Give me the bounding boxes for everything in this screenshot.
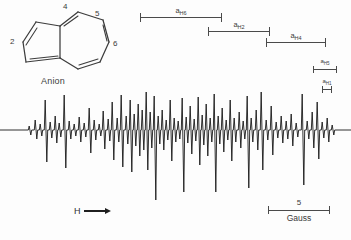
coupling-bar-aH2: aH2 xyxy=(208,22,270,36)
azulene-structure: 2 4 5 6 xyxy=(8,2,126,80)
coupling-label-aH1: aH1 xyxy=(322,78,331,84)
bar-line xyxy=(140,17,222,18)
arrow-icon xyxy=(84,210,106,212)
spectrum-derivative-curve xyxy=(0,92,351,200)
ring-position-6: 6 xyxy=(113,40,117,48)
bar-cap-right xyxy=(336,66,337,73)
ring-position-2: 2 xyxy=(10,38,14,46)
field-axis-label: H xyxy=(74,206,81,216)
bar-cap-right xyxy=(221,13,222,22)
scale-line xyxy=(268,210,330,211)
bar-line xyxy=(313,69,337,70)
coupling-bar-aH4: aH4 xyxy=(266,33,326,47)
bar-cap-right xyxy=(325,38,326,47)
figure-root: 2 4 5 6 Anion aH6 aH2 aH4 aH5 aH1 xyxy=(0,0,351,240)
coupling-bar-aH6: aH6 xyxy=(140,8,222,22)
bar-line xyxy=(208,31,270,32)
gauss-scale-bar: 5 Gauss xyxy=(268,198,330,228)
ring-position-4: 4 xyxy=(63,3,67,11)
gauss-unit-label: Gauss xyxy=(287,213,312,223)
coupling-label-aH5: aH5 xyxy=(320,58,329,64)
species-label: Anion xyxy=(41,76,65,86)
coupling-label-aH2: aH2 xyxy=(233,20,244,29)
coupling-bar-aH5: aH5 xyxy=(313,62,337,73)
coupling-label-aH4: aH4 xyxy=(290,31,301,40)
coupling-label-aH6: aH6 xyxy=(175,6,186,15)
ring-position-5: 5 xyxy=(95,10,99,18)
gauss-value: 5 xyxy=(297,198,301,207)
spectrum-svg xyxy=(0,88,351,200)
bar-line xyxy=(266,42,326,43)
field-direction-arrow: H xyxy=(74,204,106,218)
esr-spectrum-trace xyxy=(0,88,351,200)
scale-cap-right xyxy=(329,206,330,214)
azulene-skeleton-svg xyxy=(8,2,126,80)
